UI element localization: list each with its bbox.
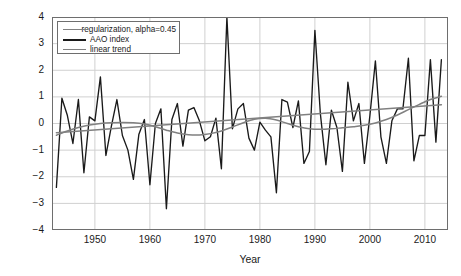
y-tick-label: 0: [18, 117, 44, 128]
x-tick-label: 1980: [240, 234, 280, 245]
y-tick-label: 3: [18, 37, 44, 48]
legend-item-linear-trend: linear trend: [61, 44, 176, 54]
y-tick-label: 2: [18, 64, 44, 75]
legend-label-aao-index: AAO index: [90, 35, 129, 44]
chart-figure: Atlantic Arctic Oscillation Index −4−3−2…: [0, 0, 461, 276]
legend-item-aao-index: AAO index: [61, 34, 176, 44]
x-tick-label: 1960: [130, 234, 170, 245]
x-tick-label: 2000: [350, 234, 390, 245]
y-tick-label: 4: [18, 11, 44, 22]
y-tick-label: 1: [18, 90, 44, 101]
x-tick-label: 2010: [405, 234, 445, 245]
y-axis-label-container: Atlantic Arctic Oscillation Index: [0, 0, 20, 250]
x-axis-label: Year: [52, 253, 448, 265]
legend-item-regularization: regularization, alpha=0.45: [61, 24, 176, 34]
y-tick-label: −3: [18, 197, 44, 208]
legend-label-regularization: regularization, alpha=0.45: [82, 25, 176, 34]
series-line-linear-trend: [56, 105, 441, 133]
legend-label-linear-trend: linear trend: [90, 45, 131, 54]
x-tick-label: 1970: [185, 234, 225, 245]
y-tick-label: −4: [18, 224, 44, 235]
x-tick-label: 1990: [295, 234, 335, 245]
chart-legend: regularization, alpha=0.45 AAO index lin…: [57, 21, 180, 54]
y-tick-label: −1: [18, 144, 44, 155]
y-tick-label: −2: [18, 170, 44, 181]
x-tick-label: 1950: [75, 234, 115, 245]
y-axis-label: Atlantic Arctic Oscillation Index: [2, 0, 16, 28]
